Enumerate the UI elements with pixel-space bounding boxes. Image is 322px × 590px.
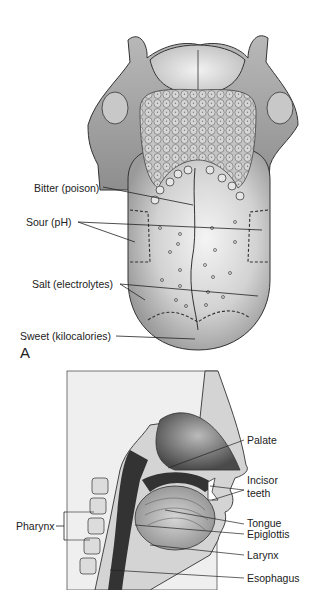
label-esophagus: Esophagus bbox=[247, 573, 300, 584]
sagittal-section-illustration bbox=[56, 371, 247, 590]
label-pharynx: Pharynx bbox=[16, 521, 55, 532]
tongue-dorsal-illustration bbox=[78, 36, 298, 350]
anatomy-figure bbox=[0, 0, 322, 590]
label-incisor-teeth: Incisor teeth bbox=[247, 474, 278, 500]
label-bitter: Bitter (poison) bbox=[34, 183, 99, 194]
label-incisor-line1: Incisor bbox=[247, 474, 278, 487]
label-sour: Sour (pH) bbox=[26, 217, 72, 228]
label-larynx: Larynx bbox=[247, 550, 279, 561]
label-incisor-line2: teeth bbox=[247, 487, 278, 500]
label-sweet: Sweet (kilocalories) bbox=[20, 331, 111, 342]
panel-letter-a: A bbox=[20, 345, 30, 360]
label-epiglottis: Epiglottis bbox=[247, 529, 290, 540]
label-tongue: Tongue bbox=[247, 518, 281, 529]
label-salt: Salt (electrolytes) bbox=[32, 279, 113, 290]
label-palate: Palate bbox=[247, 435, 277, 446]
